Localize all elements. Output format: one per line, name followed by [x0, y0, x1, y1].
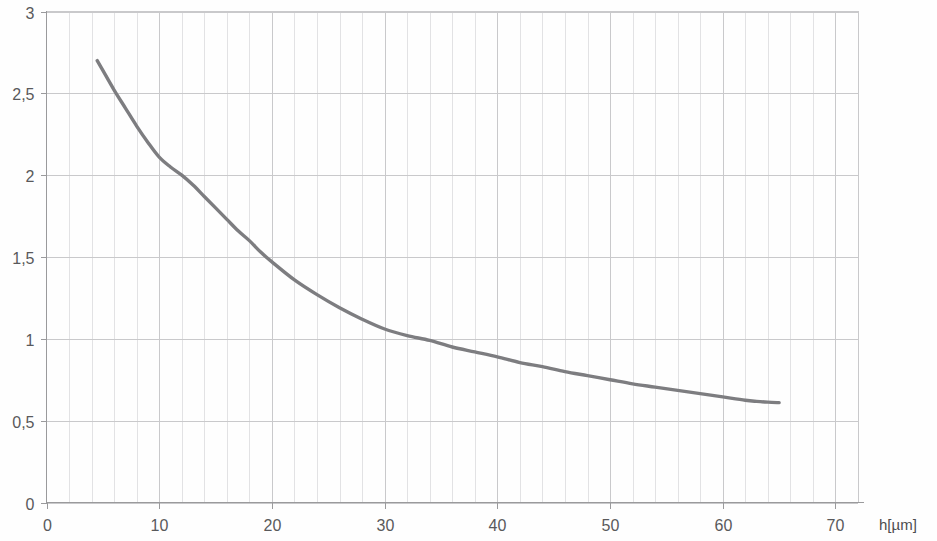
x-tick-label: 10 [151, 517, 169, 534]
line-chart: 32,521,510,50 010203040506070 h[µm] [0, 0, 937, 541]
chart-background [0, 0, 937, 541]
x-tick-label: 60 [715, 517, 733, 534]
y-tick-label: 3 [26, 5, 35, 22]
x-tick-label: 0 [43, 517, 52, 534]
x-tick-label: 40 [489, 517, 507, 534]
chart-figure: 32,521,510,50 010203040506070 h[µm] [0, 0, 937, 541]
x-tick-label: 50 [602, 517, 620, 534]
x-tick-label: 70 [827, 517, 845, 534]
x-tick-label: 30 [377, 517, 395, 534]
y-tick-label: 2 [26, 168, 35, 185]
y-tick-label: 1 [26, 332, 35, 349]
y-tick-label: 0 [26, 496, 35, 513]
x-tick-label: 20 [264, 517, 282, 534]
x-axis-title: h[µm] [879, 516, 917, 533]
y-tick-label: 1,5 [12, 250, 34, 267]
y-tick-label: 0,5 [12, 414, 34, 431]
y-tick-label: 2,5 [12, 86, 34, 103]
